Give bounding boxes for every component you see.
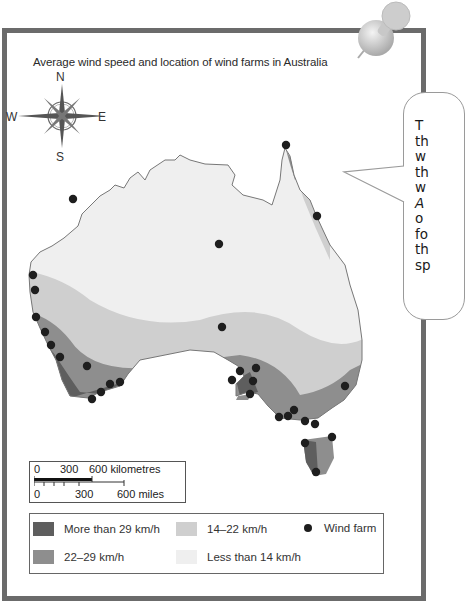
wind-farm-marker bbox=[218, 323, 226, 331]
scale-km-300: 300 bbox=[60, 463, 78, 475]
wind-farm-marker bbox=[252, 364, 260, 372]
wind-farm-marker bbox=[313, 212, 321, 220]
wind-farm-marker bbox=[249, 377, 257, 385]
wind-farm-marker bbox=[228, 376, 236, 384]
wind-farm-marker bbox=[32, 313, 40, 321]
wind-farm-marker bbox=[106, 380, 114, 388]
legend-swatch bbox=[33, 522, 54, 536]
legend-item-14-22: 14–22 km/h bbox=[176, 522, 267, 536]
wind-farm-dot-icon bbox=[304, 524, 312, 532]
wind-farm-marker bbox=[47, 341, 55, 349]
wind-farm-marker bbox=[282, 141, 290, 149]
wind-farm-marker bbox=[312, 468, 320, 476]
legend-item-under-14: Less than 14 km/h bbox=[176, 550, 301, 564]
scale-bar: 0 300 600 kilometres 0 300 600 miles bbox=[29, 461, 186, 503]
pushpin-icon bbox=[350, 0, 420, 62]
wind-farm-marker bbox=[88, 395, 96, 403]
wind-farm-marker bbox=[97, 388, 105, 396]
scale-km-600: 600 kilometres bbox=[89, 463, 161, 475]
wind-farm-marker bbox=[246, 390, 254, 398]
wind-farm-marker bbox=[301, 417, 309, 425]
speech-bubble bbox=[403, 92, 465, 320]
scale-ruler bbox=[34, 476, 129, 488]
wind-farm-marker bbox=[341, 382, 349, 390]
speech-bubble-pointer bbox=[340, 160, 406, 240]
wind-farm-marker bbox=[116, 378, 124, 386]
wind-farm-marker bbox=[284, 412, 292, 420]
scale-mi-600: 600 miles bbox=[117, 488, 164, 500]
legend-item-over-29: More than 29 km/h bbox=[33, 522, 160, 536]
legend-swatch bbox=[176, 522, 197, 536]
wind-farm-marker bbox=[301, 439, 309, 447]
legend-item-22-29: 22–29 km/h bbox=[33, 550, 124, 564]
scale-mi-300: 300 bbox=[75, 488, 93, 500]
wind-farm-marker bbox=[215, 240, 223, 248]
speech-bubble-text: T th w th w A o fo th sp bbox=[415, 118, 431, 273]
wind-farm-marker bbox=[311, 420, 319, 428]
legend-swatch bbox=[176, 550, 197, 564]
scale-km-0: 0 bbox=[34, 463, 40, 475]
wind-farm-marker bbox=[275, 413, 283, 421]
scale-mi-0: 0 bbox=[34, 488, 40, 500]
wind-farm-marker bbox=[29, 271, 37, 279]
wind-farm-marker bbox=[56, 353, 64, 361]
wind-farm-marker bbox=[328, 433, 336, 441]
legend-swatch bbox=[33, 550, 54, 564]
wind-farm-marker bbox=[290, 406, 298, 414]
legend: More than 29 km/h 22–29 km/h 14–22 km/h … bbox=[29, 513, 384, 574]
wind-farm-marker bbox=[41, 328, 49, 336]
wind-farm-marker bbox=[236, 367, 244, 375]
wind-farm-marker bbox=[69, 195, 77, 203]
wind-farm-marker bbox=[83, 362, 91, 370]
wind-farm-marker bbox=[31, 286, 39, 294]
legend-item-wind-farm: Wind farm bbox=[304, 522, 376, 534]
